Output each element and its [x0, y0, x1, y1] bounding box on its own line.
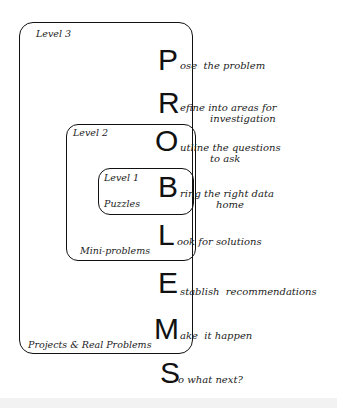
bottom-strip: [0, 398, 337, 408]
step-l-text: ook for solutions: [177, 236, 262, 247]
acronym-letter-r: R: [158, 88, 180, 118]
step-m-text: ake it happen: [180, 330, 252, 341]
level-3-footer: Projects & Real Problems: [28, 339, 152, 350]
acronym-letter-m: M: [154, 314, 179, 344]
step-o-text: utline the questionsto ask: [180, 142, 281, 164]
acronym-letter-o: O: [155, 126, 178, 156]
step-r-text: efine into areas forinvestigation: [180, 102, 276, 124]
acronym-letter-s: S: [160, 358, 180, 388]
step-e-text: stablish recommendations: [180, 286, 317, 297]
level-2-title: Level 2: [73, 127, 108, 138]
level-1-footer: Puzzles: [104, 198, 140, 209]
acronym-letter-l: L: [158, 220, 175, 250]
acronym-letter-b: B: [158, 172, 178, 202]
level-2-footer: Mini-problems: [80, 245, 150, 256]
level-1-title: Level 1: [104, 172, 139, 183]
step-b-text: ring the right datahome: [180, 188, 274, 210]
step-p-text: ose the problem: [180, 60, 265, 71]
step-s-text: o what next?: [178, 374, 243, 385]
level-3-title: Level 3: [36, 28, 71, 39]
acronym-letter-e: E: [158, 268, 178, 298]
acronym-letter-p: P: [158, 45, 178, 75]
